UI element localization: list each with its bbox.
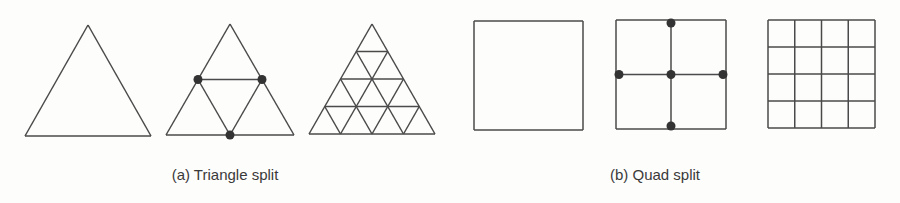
split-point-right (719, 70, 728, 79)
edge-left (25, 25, 88, 136)
split-point-bottom (226, 131, 235, 140)
edge-right (88, 25, 151, 136)
quad-original (474, 21, 583, 130)
caption-triangle-split: (a) Triangle split (172, 166, 279, 183)
subdivision-diagonal (230, 80, 262, 136)
split-point-left (194, 75, 203, 84)
quad-refined (768, 20, 875, 128)
split-point-left (615, 70, 624, 79)
triangle-original (25, 25, 151, 136)
subdivision-diagonal (325, 107, 341, 135)
subdivision-diagonal (198, 80, 230, 136)
split-point-bottom (667, 122, 676, 131)
subdivision-figure (0, 0, 900, 203)
triangle-first-split (166, 24, 294, 140)
caption-quad-split: (b) Quad split (610, 166, 700, 183)
split-point-top (667, 19, 676, 28)
split-point-right (258, 75, 267, 84)
subdivision-diagonal (404, 107, 420, 135)
split-point-center (667, 70, 676, 79)
quad-first-split (615, 19, 728, 131)
triangle-refined (309, 24, 435, 134)
